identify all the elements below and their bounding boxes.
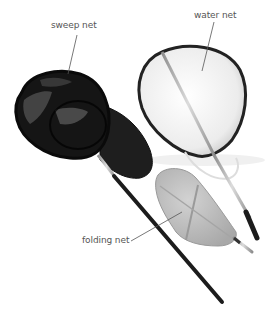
water-net-label: water net [194,10,236,20]
net-illustration: sweep net water net folding net [0,0,273,319]
nets-drawing [0,0,273,319]
folding-net-joint [234,238,240,243]
folding-net-label: folding net [82,235,129,245]
sweep-net-leader-line [68,35,77,74]
sweep-net-label: sweep net [51,20,97,30]
folding-net-bag [156,169,237,246]
water-net-hoop [139,46,246,156]
water-net-grip [246,212,257,238]
